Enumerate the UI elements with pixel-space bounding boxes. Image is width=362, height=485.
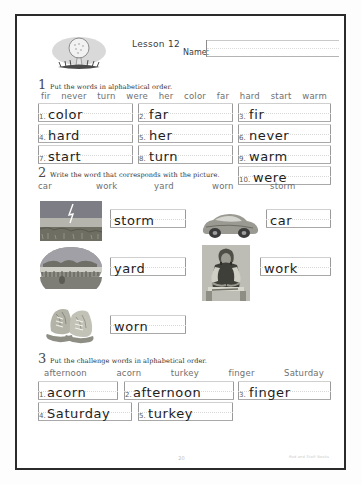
answer-slot[interactable]: 2. afternoon — [124, 381, 234, 400]
lightning-storm-photo — [40, 201, 102, 241]
answer-word: never — [249, 128, 289, 143]
answer-number: 2. — [139, 113, 146, 121]
answer-word: finger — [249, 385, 291, 400]
answer-slot[interactable]: 5. turkey — [138, 402, 233, 421]
worksheet-sheet: Lesson 12 Name: 1 Put the words in alpha… — [20, 19, 343, 467]
word-bank-item: start — [271, 91, 292, 101]
answer-word: her — [149, 128, 172, 143]
section-3-word-bank: afternoon acorn turkey finger Saturday — [38, 368, 330, 378]
word-bank-item: storm — [270, 181, 328, 191]
word-bank-item: afternoon — [44, 368, 87, 378]
answer-slot[interactable]: 4. hard — [38, 124, 133, 143]
section-3-instruction: Put the challenge words in alphabetical … — [50, 357, 207, 365]
section-1-instruction: Put the words in alphabetical order. — [50, 83, 172, 91]
answer-slot[interactable]: work — [260, 257, 331, 276]
section-2-instruction: Write the word that corresponds with the… — [50, 171, 220, 179]
answer-number: 3. — [239, 391, 246, 399]
answer-word: yard — [114, 261, 145, 276]
answer-slot[interactable]: 6. never — [238, 124, 331, 143]
lawn-yard-photo — [40, 247, 102, 289]
word-bank-item: Saturday — [284, 368, 324, 378]
answer-slot[interactable]: 5. her — [138, 124, 233, 143]
page-border-frame: Lesson 12 Name: 1 Put the words in alpha… — [15, 14, 346, 470]
worn-shoes-photo — [42, 301, 102, 345]
word-bank-item: worn — [212, 181, 270, 191]
word-bank-item: warm — [302, 91, 327, 101]
word-bank-item: fir — [41, 91, 50, 101]
answer-slot[interactable]: 1. color — [38, 103, 133, 122]
answer-number: 8. — [139, 155, 146, 163]
answer-word: turn — [149, 149, 178, 164]
word-bank-item: hard — [240, 91, 260, 101]
answer-word: color — [48, 107, 83, 122]
answer-slot[interactable]: car — [266, 209, 331, 228]
answer-slot[interactable]: 8. turn — [138, 145, 233, 164]
answer-word: far — [149, 107, 169, 122]
answer-word: worn — [114, 319, 148, 334]
answer-slot[interactable]: 3. finger — [238, 381, 331, 400]
answer-slot[interactable]: worn — [110, 315, 186, 334]
word-bank-item: color — [184, 91, 206, 101]
answer-number: 5. — [139, 412, 146, 420]
answer-slot[interactable]: yard — [110, 257, 186, 276]
answer-slot[interactable]: 1. acorn — [38, 381, 118, 400]
answer-number: 4. — [39, 134, 46, 142]
answer-word: hard — [48, 128, 80, 143]
answer-slot[interactable]: 9. warm — [238, 145, 331, 164]
answer-number: 3. — [239, 113, 246, 121]
answer-number: 1. — [39, 113, 46, 121]
section-1-word-bank: fir never turn were her color far hard s… — [38, 91, 330, 101]
word-bank-item: yard — [154, 181, 212, 191]
answer-slot[interactable]: 3. fir — [238, 103, 331, 122]
word-bank-item: never — [61, 91, 86, 101]
answer-number: 2. — [125, 391, 132, 399]
answer-word: turkey — [148, 406, 193, 421]
answer-number: 1. — [39, 391, 46, 399]
answer-number: 9. — [239, 155, 246, 163]
word-bank-item: were — [126, 91, 148, 101]
answer-word: afternoon — [133, 385, 201, 400]
answer-word: start — [48, 149, 81, 164]
word-bank-item: work — [96, 181, 154, 191]
answer-word: Saturday — [47, 406, 110, 421]
answer-number: 7. — [39, 155, 46, 163]
word-bank-item: finger — [229, 368, 255, 378]
answer-slot[interactable]: 2. far — [138, 103, 233, 122]
answer-number: 5. — [139, 134, 146, 142]
person-working-photo — [202, 245, 250, 301]
answer-number: 4. — [39, 412, 46, 420]
word-bank-item: her — [159, 91, 174, 101]
word-bank-item: car — [38, 181, 96, 191]
section-2-number: 2 — [38, 165, 46, 180]
word-bank-item: turkey — [171, 368, 199, 378]
answer-word: storm — [114, 213, 155, 228]
section-2-word-bank: car work yard worn storm — [38, 181, 330, 191]
answer-word: work — [264, 261, 298, 276]
answer-word: car — [270, 213, 292, 228]
word-bank-item: acorn — [116, 368, 141, 378]
answer-slot[interactable]: 7. start — [38, 145, 133, 164]
lesson-title: Lesson 12 — [132, 39, 180, 49]
sports-car-photo — [198, 205, 260, 239]
answer-word: acorn — [47, 385, 86, 400]
worksheet-header: Lesson 12 Name: — [20, 23, 343, 77]
answer-slot[interactable]: storm — [110, 209, 186, 228]
section-3-number: 3 — [38, 351, 46, 366]
answer-word: warm — [249, 149, 288, 164]
answer-number: 6. — [239, 134, 246, 142]
footer-credit: Rod and Staff Books — [289, 455, 329, 459]
answer-slot[interactable]: 4. Saturday — [38, 402, 132, 421]
word-bank-item: far — [217, 91, 229, 101]
name-input-line[interactable] — [207, 40, 339, 57]
word-bank-item: turn — [97, 91, 115, 101]
section-1-number: 1 — [38, 77, 46, 92]
answer-word: fir — [249, 107, 264, 122]
worksheet-page: Lesson 12 Name: 1 Put the words in alpha… — [0, 0, 362, 485]
golf-ball-on-tee-icon — [48, 31, 110, 75]
